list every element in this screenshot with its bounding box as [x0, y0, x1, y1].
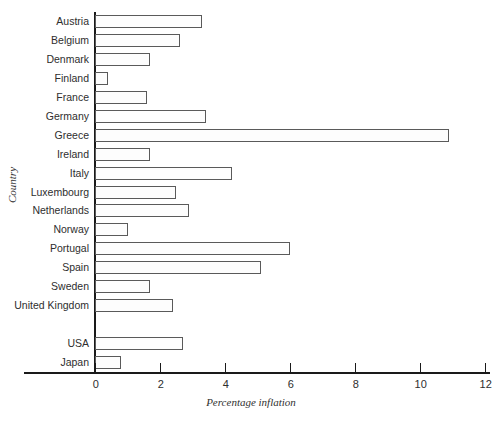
bar [95, 204, 189, 217]
x-axis-tick [290, 363, 291, 373]
category-label: Italy [70, 168, 89, 179]
category-label: Greece [55, 130, 89, 141]
bar [95, 337, 183, 350]
inflation-bar-chart: Country AustriaBelgiumDenmarkFinlandFran… [0, 0, 502, 430]
x-axis-tick [420, 363, 421, 373]
bar [95, 356, 121, 369]
x-axis-tick [355, 363, 356, 373]
bar [95, 280, 150, 293]
bar [95, 15, 202, 28]
x-axis-tick-label: 2 [158, 378, 164, 390]
x-axis-tick-label: 0 [93, 378, 99, 390]
x-axis-tick [485, 363, 486, 373]
bar [95, 167, 232, 180]
category-label: Luxembourg [31, 187, 89, 198]
category-label: France [56, 92, 89, 103]
category-label: Austria [56, 16, 89, 27]
category-label-group: AustriaBelgiumDenmarkFinlandFranceGerman… [24, 12, 93, 372]
bar [95, 110, 206, 123]
category-label: Belgium [51, 35, 89, 46]
x-axis-tick-label: 12 [480, 378, 492, 390]
bar-group [95, 12, 490, 372]
x-axis-title: Percentage inflation [0, 396, 502, 408]
x-axis-tick-label: 4 [223, 378, 229, 390]
category-label: Norway [53, 224, 89, 235]
category-label: Sweden [51, 281, 89, 292]
plot-area: AustriaBelgiumDenmarkFinlandFranceGerman… [24, 12, 490, 372]
x-axis-tick [160, 363, 161, 373]
bar [95, 186, 176, 199]
bar [95, 72, 108, 85]
bar [95, 53, 150, 66]
category-label: Japan [60, 357, 89, 368]
x-axis-tick-label: 10 [415, 378, 427, 390]
category-label: United Kingdom [14, 300, 89, 311]
bar [95, 242, 290, 255]
x-axis-tick-label: 6 [288, 378, 294, 390]
category-label: Denmark [46, 54, 89, 65]
x-axis-tick [95, 363, 96, 373]
bar [95, 34, 180, 47]
category-label: Netherlands [32, 205, 89, 216]
y-axis-title: Country [0, 0, 24, 370]
bar [95, 148, 150, 161]
bar [95, 261, 261, 274]
bar [95, 129, 449, 142]
category-label: Spain [62, 262, 89, 273]
category-label: Finland [55, 73, 89, 84]
x-axis-tick [225, 363, 226, 373]
bar [95, 299, 173, 312]
category-label: Germany [46, 111, 89, 122]
category-label: Ireland [57, 149, 89, 160]
category-label: Portugal [50, 243, 89, 254]
bar [95, 91, 147, 104]
bar [95, 223, 128, 236]
x-axis-tick-label: 8 [353, 378, 359, 390]
y-axis-title-text: Country [6, 167, 18, 203]
category-label: USA [67, 338, 89, 349]
